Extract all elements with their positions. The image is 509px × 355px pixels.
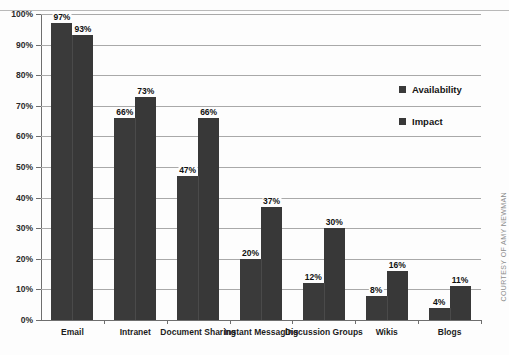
bar-value-label: 16% <box>388 260 407 270</box>
y-axis-labels: 100%90%80%70%60%50%40%30%20%10%0% <box>0 0 36 355</box>
bar-value-label: 30% <box>325 217 344 227</box>
x-axis-tick <box>167 320 168 324</box>
y-axis-tick <box>36 289 41 290</box>
plot-area: 97%93%66%73%47%66%20%37%12%30%8%16%4%11% <box>41 14 481 320</box>
bar-seam <box>450 308 451 320</box>
bar <box>303 283 324 320</box>
bar <box>366 296 387 320</box>
y-axis-tick-label: 70% <box>0 101 33 111</box>
bar-value-label: 93% <box>73 24 92 34</box>
bar <box>135 97 156 320</box>
y-axis-tick <box>36 198 41 199</box>
y-axis-tick <box>36 14 41 15</box>
bar-value-label: 97% <box>52 12 71 22</box>
y-axis-tick <box>36 45 41 46</box>
title-divider <box>0 10 509 11</box>
bar <box>450 286 471 320</box>
chart-figure: 100%90%80%70%60%50%40%30%20%10%0% 97%93%… <box>0 0 509 355</box>
y-axis-tick-label: 30% <box>0 223 33 233</box>
bar-value-label: 66% <box>115 107 134 117</box>
gridline <box>41 320 481 321</box>
bar <box>177 176 198 320</box>
bar-value-label: 11% <box>451 275 470 285</box>
gridline <box>41 75 481 76</box>
gridline <box>41 45 481 46</box>
bar-seam <box>261 259 262 320</box>
bar-value-label: 66% <box>199 107 218 117</box>
legend-item: Impact <box>399 116 443 127</box>
x-axis-tick <box>355 320 356 324</box>
gridline <box>41 106 481 107</box>
gridline <box>41 14 481 15</box>
legend-item: Availability <box>399 84 462 95</box>
gridline <box>41 136 481 137</box>
y-axis-tick <box>36 228 41 229</box>
x-axis-category-label: Wikis <box>376 327 398 337</box>
bar <box>114 118 135 320</box>
y-axis-tick-label: 10% <box>0 284 33 294</box>
bar-seam <box>135 118 136 320</box>
x-axis-category-label: Intranet <box>120 327 151 337</box>
bar-seam <box>72 35 73 320</box>
legend-item-label: Availability <box>412 84 462 95</box>
x-axis-tick <box>104 320 105 324</box>
y-axis-tick-label: 60% <box>0 131 33 141</box>
y-axis-tick-label: 90% <box>0 40 33 50</box>
bar <box>51 23 72 320</box>
x-axis-tick <box>418 320 419 324</box>
y-axis-tick <box>36 320 41 321</box>
chart-title-cropped <box>0 0 509 10</box>
x-axis-tick <box>481 320 482 324</box>
legend-item-label: Impact <box>412 116 443 127</box>
y-axis-tick-label: 50% <box>0 162 33 172</box>
bar-value-label: 37% <box>262 196 281 206</box>
y-axis-tick-label: 80% <box>0 70 33 80</box>
y-axis-tick <box>36 75 41 76</box>
bar-value-label: 12% <box>304 272 323 282</box>
y-axis-tick <box>36 259 41 260</box>
bar <box>261 207 282 320</box>
bar <box>240 259 261 320</box>
y-axis-tick <box>36 167 41 168</box>
legend-swatch-icon <box>399 86 406 93</box>
legend-swatch-icon <box>399 118 406 125</box>
bar <box>72 35 93 320</box>
bar-seam <box>198 176 199 320</box>
bar-value-label: 8% <box>369 285 383 295</box>
y-axis-tick-label: 20% <box>0 254 33 264</box>
x-axis-category-label: Blogs <box>438 327 462 337</box>
bar <box>324 228 345 320</box>
gridline <box>41 167 481 168</box>
y-axis-tick <box>36 106 41 107</box>
bar <box>429 308 450 320</box>
bar-value-label: 4% <box>432 297 446 307</box>
x-axis-tick <box>230 320 231 324</box>
bar-seam <box>324 283 325 320</box>
y-axis-tick-label: 0% <box>0 315 33 325</box>
x-axis-tick <box>292 320 293 324</box>
x-axis-category-label: Email <box>61 327 84 337</box>
bar-value-label: 73% <box>136 86 155 96</box>
credit-text: COURTESY OF AMY NEWMAN <box>500 192 507 302</box>
y-axis-tick <box>36 136 41 137</box>
x-axis-category-label: Discussion Groups <box>285 327 363 337</box>
bar-seam <box>387 296 388 320</box>
bar <box>387 271 408 320</box>
y-axis-tick-label: 40% <box>0 193 33 203</box>
bar-value-label: 47% <box>178 165 197 175</box>
bar <box>198 118 219 320</box>
bar-value-label: 20% <box>241 248 260 258</box>
y-axis-tick-label: 100% <box>0 9 33 19</box>
